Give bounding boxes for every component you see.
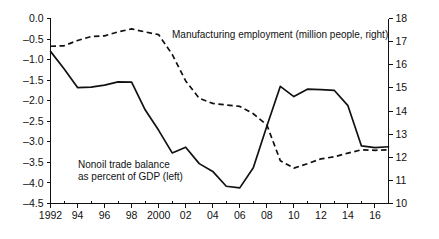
right-axis-tick-label: 14 [396, 105, 408, 117]
left-axis-tick-label: –4.0 [23, 177, 44, 189]
x-axis-tick-label: 1992 [39, 209, 63, 221]
right-axis-tick-label: 12 [396, 151, 408, 163]
annotations-group: Manufacturing employment (million people… [78, 29, 388, 182]
left-axis-tick-label: –4.5 [23, 197, 44, 209]
chart-container: 0.0–0.5–1.0–1.5–2.0–2.5–3.0–3.5–4.0–4.51… [0, 0, 439, 239]
x-axis-tick-label: 04 [207, 209, 219, 221]
right-axis-tick-label: 10 [396, 197, 408, 209]
nonoil-trade-balance-label-line2: as percent of GDP (left) [78, 171, 183, 182]
left-axis-tick-label: –1.5 [23, 74, 44, 86]
right-axis-tick-label: 11 [396, 174, 407, 186]
x-axis-tick-label: 14 [342, 209, 354, 221]
left-axis-tick-label: –2.0 [23, 94, 44, 106]
series-line-manufacturing-employment [51, 29, 389, 168]
x-axis-tick-label: 2000 [147, 209, 171, 221]
x-axis-tick-label: 10 [288, 209, 300, 221]
right-axis-tick-label: 15 [396, 81, 408, 93]
x-axis-tick-label: 02 [180, 209, 192, 221]
left-axis-tick-label: –1.0 [23, 53, 44, 65]
right-axis-tick-label: 13 [396, 128, 408, 140]
right-axis-tick-label: 17 [396, 35, 408, 47]
tick-labels-group: 0.0–0.5–1.0–1.5–2.0–2.5–3.0–3.5–4.0–4.51… [23, 12, 407, 220]
chart-plot: 0.0–0.5–1.0–1.5–2.0–2.5–3.0–3.5–4.0–4.51… [0, 0, 439, 239]
left-axis-tick-label: –3.5 [23, 156, 44, 168]
left-axis-tick-label: 0.0 [29, 12, 44, 24]
left-axis-tick-label: –0.5 [23, 33, 44, 45]
nonoil-trade-balance-label-line1: Nonoil trade balance [78, 159, 170, 170]
x-axis-tick-label: 98 [126, 209, 138, 221]
right-axis-tick-label: 16 [396, 58, 408, 70]
left-axis-tick-label: –2.5 [23, 115, 44, 127]
right-axis-tick-label: 18 [396, 12, 408, 24]
x-axis-tick-label: 96 [99, 209, 111, 221]
x-axis-tick-label: 94 [72, 209, 84, 221]
manufacturing-employment-label: Manufacturing employment (million people… [172, 29, 388, 40]
left-axis-tick-label: –3.0 [23, 135, 44, 147]
x-axis-tick-label: 12 [315, 209, 327, 221]
x-axis-tick-label: 08 [261, 209, 273, 221]
x-axis-tick-label: 16 [369, 209, 381, 221]
x-axis-tick-label: 06 [234, 209, 246, 221]
